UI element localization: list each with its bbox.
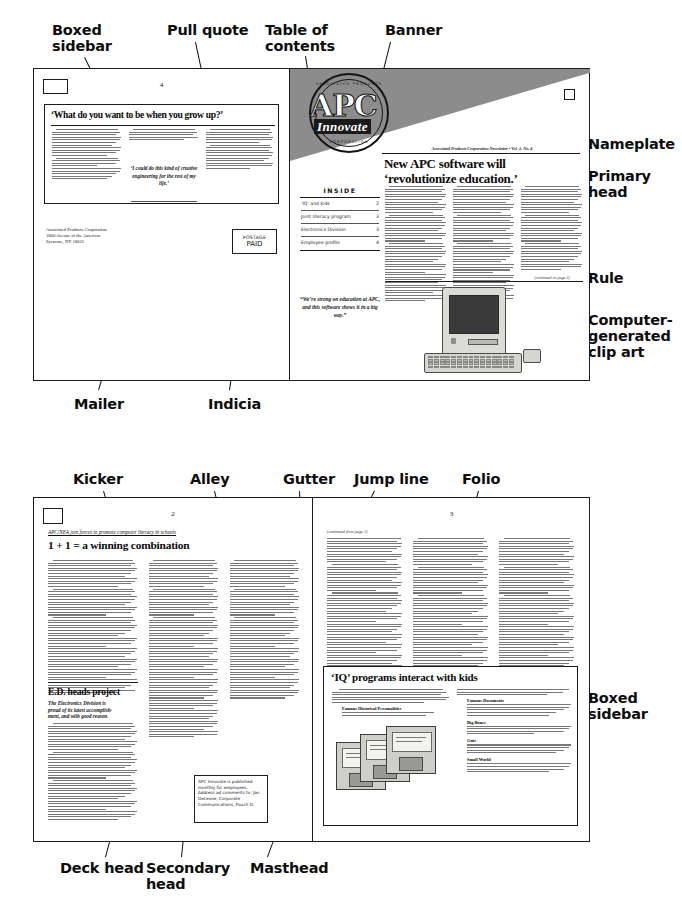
primary-head-line-1: New APC software will [384, 157, 582, 172]
deck-line-3: ment, and with good reason. [48, 713, 138, 720]
annotation-rule: Rule [588, 270, 624, 286]
primary-head-page-2: 1 + 1 = a winning combination [48, 539, 268, 551]
sidebar-bullet-2: Famous Documents [467, 698, 572, 703]
indicia-box: POSTAGE PAID [232, 229, 277, 254]
annotation-masthead: Masthead [250, 860, 329, 876]
toc-divider [301, 210, 379, 211]
annotation-secondary-head: Secondary head [146, 860, 230, 892]
annotation-deck-head: Deck head [60, 860, 144, 876]
macintosh-computer-clip-art [420, 287, 560, 377]
deck-head: The Electronics Division is proud of its… [48, 700, 138, 720]
annotation-indicia: Indicia [208, 396, 261, 412]
mac-screen [449, 295, 499, 334]
floppy-shutter [399, 757, 423, 771]
masthead-box: APC Innovate is published monthly for em… [194, 775, 268, 823]
nameplate-rule [382, 153, 580, 154]
page-1-cover: ASSOCIATED PRODUCTS CORPORATION APC Inno… [290, 69, 589, 380]
sidebar-col-left: Famous Historical Personalities [332, 689, 450, 790]
annotation-boxed-sidebar-bottom: Boxed sidebar [588, 690, 648, 722]
sidebar-headline-iq-programs: ‘IQ’ programs interact with kids [331, 671, 575, 683]
pull-quote-page-4: ‘I could do this kind of creative engine… [129, 165, 199, 188]
figure-canvas: Boxed sidebar Pull quote Table of conten… [0, 0, 682, 918]
spread-top: 4 ‘What do you want to be when you grow … [33, 68, 590, 381]
toc-item-iq-and-kids[interactable]: ‘IQ’ and kids 2 [301, 201, 379, 206]
sidebar-column-2: ‘I could do this kind of creative engine… [129, 129, 199, 142]
annotation-gutter: Gutter [283, 471, 335, 487]
seal-top-text: ASSOCIATED PRODUCTS [311, 82, 387, 86]
annotation-boxed-sidebar-top: Boxed sidebar [52, 22, 112, 54]
sidebar-col-right: Famous Documents Big Bones Guts [457, 689, 572, 774]
annotation-alley: Alley [190, 471, 229, 487]
toc-item-label: Employee profile [301, 240, 340, 245]
annotation-primary-head: Primary head [588, 168, 651, 200]
mailer-address-block: Associated Products Corporation 1800 Ave… [46, 227, 166, 246]
toc-item-label: Electronics Division [301, 227, 346, 232]
secondary-head: E.D. heads project [48, 686, 138, 697]
story-column-3: (continued on page 2) [521, 186, 583, 277]
page-4: 4 ‘What do you want to be when you grow … [34, 69, 289, 380]
sidebar-rule [51, 125, 275, 126]
toc-item-page: 3 [376, 214, 379, 219]
corner-mark [564, 89, 575, 100]
boxed-sidebar-page-4: ‘What do you want to be when you grow up… [44, 104, 279, 204]
folio-page-3: 3 [313, 510, 590, 518]
floppy-label [392, 732, 432, 752]
annotation-mailer: Mailer [74, 396, 124, 412]
toc-item-label: ‘IQ’ and kids [301, 201, 330, 206]
annotation-clip-art: Computer- generated clip art [588, 312, 673, 361]
toc-rule-bottom [300, 250, 380, 251]
page-3-column-3 [499, 538, 575, 675]
annotation-table-of-contents: Table of contents [265, 22, 335, 54]
annotation-pull-quote: Pull quote [167, 22, 248, 38]
toc-item-label: Joint literacy program [301, 214, 351, 219]
floppy-disks-clip-art [332, 720, 450, 790]
annotation-nameplate: Nameplate [588, 136, 675, 152]
mac-floppy-slot [468, 339, 498, 345]
page-2: 2 APC/NEA join forces to promote compute… [34, 498, 312, 841]
page-3: 3 (continued from page 1) [313, 498, 589, 841]
annotation-banner: Banner [385, 22, 442, 38]
floppy-disk [386, 726, 436, 774]
folio-page-4: 4 [34, 81, 289, 89]
toc-item-page: 2 [376, 201, 379, 206]
toc-item-employee-profile[interactable]: Employee profile 4 [301, 240, 379, 245]
primary-head-line-2: ‘revolutionize education.’ [384, 172, 582, 187]
story-column-1 [385, 186, 447, 303]
sidebar-column-1 [52, 129, 122, 181]
toc-item-electronics-division[interactable]: Electronics Division 3 [301, 227, 379, 232]
annotation-folio: Folio [462, 471, 500, 487]
pull-quote-rule [131, 201, 197, 202]
nameplate: Associated Products Corporation Newslett… [382, 146, 582, 152]
sidebar-bullet-1: Famous Historical Personalities [342, 706, 450, 711]
boxed-sidebar-page-3: ‘IQ’ programs interact with kids Famous … [323, 666, 578, 826]
toc-item-page: 3 [376, 227, 379, 232]
article-rule [385, 281, 583, 282]
page-2-column-1: E.D. heads project The Electronics Divis… [48, 560, 138, 695]
annotation-jump-line: Jump line [354, 471, 429, 487]
kicker: APC/NEA join forces to promote computer … [48, 529, 258, 535]
spread-bottom: 2 APC/NEA join forces to promote compute… [33, 497, 590, 842]
annotation-kicker: Kicker [73, 471, 123, 487]
mac-keyboard-keys [428, 356, 514, 368]
toc-item-page: 4 [376, 240, 379, 245]
secondary-head-rule [48, 682, 138, 683]
jump-line: (continued from page 1) [327, 529, 407, 534]
mailer-line-3: Syracuse, NY 10025 [46, 239, 166, 245]
sidebar-bullet-3: Big Bones [467, 720, 572, 725]
sidebar-headline: ‘What do you want to be when you grow up… [51, 109, 275, 120]
mac-mouse [523, 349, 541, 363]
story-column-2 [453, 186, 515, 303]
toc-title: INSIDE [302, 187, 378, 194]
toc-item-joint-literacy-program[interactable]: Joint literacy program 3 [301, 214, 379, 219]
banner-logo-word: APC [310, 91, 377, 121]
indicia-line-2: PAID [246, 240, 262, 248]
sidebar-bullet-5: Small World [467, 757, 572, 762]
sidebar-column-3 [206, 129, 274, 171]
page-2-column-3 [230, 560, 300, 700]
masthead-text: APC Innovate is published monthly for em… [198, 779, 259, 807]
toc-divider [301, 223, 379, 224]
page-3-column-2 [413, 538, 489, 675]
continued-line: (continued on page 2) [521, 275, 583, 280]
banner-logo-script: Innovate [314, 119, 371, 134]
seal-bottom-text: CORPORATION [311, 140, 387, 144]
